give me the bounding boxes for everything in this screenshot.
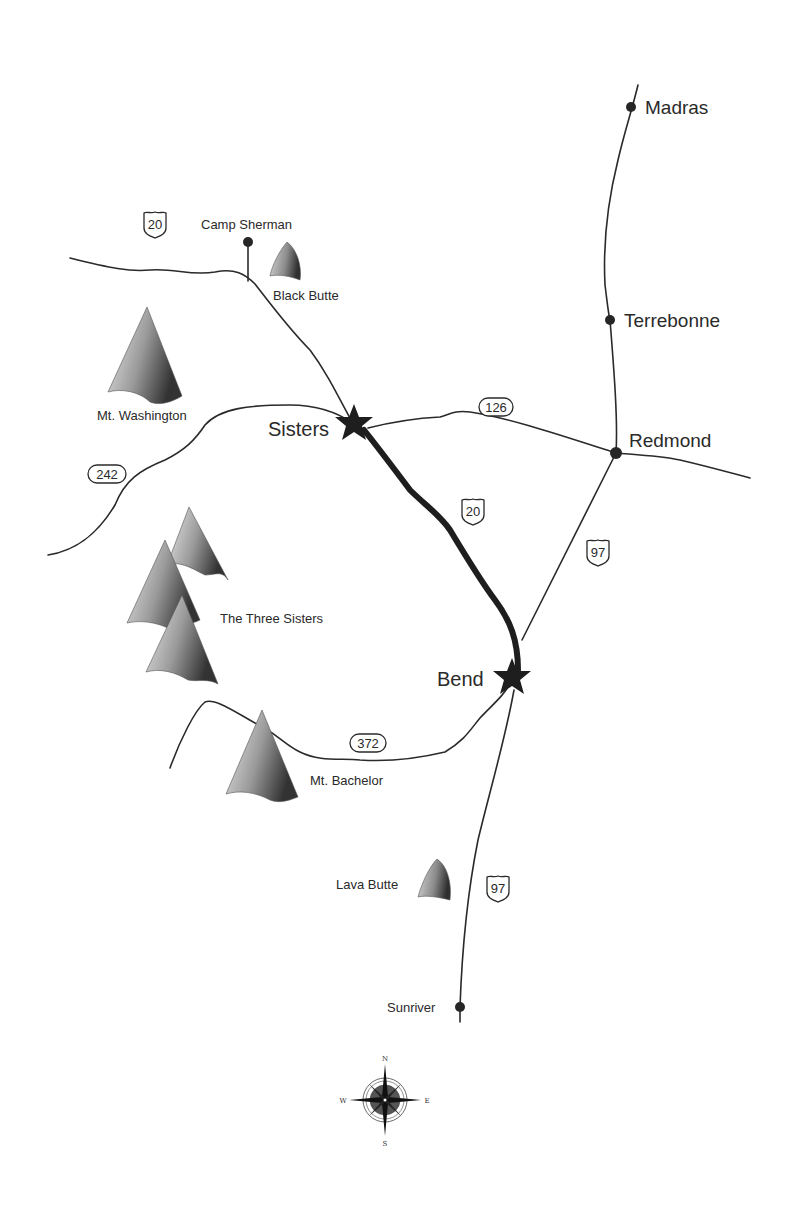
town-dot-sunriver[interactable] <box>455 1002 465 1012</box>
label-redmond: Redmond <box>629 430 711 451</box>
label-black-butte: Black Butte <box>273 288 339 303</box>
compass-rose-icon: N S W E <box>339 1055 429 1148</box>
mountain-black-butte <box>270 242 300 280</box>
shield-or372: 372 <box>350 734 386 752</box>
mountain-mt-washington <box>108 307 182 404</box>
mountain-mt-bachelor <box>226 710 298 802</box>
label-three-sisters: The Three Sisters <box>220 611 324 626</box>
route-highlight-sisters-bend <box>364 430 518 670</box>
label-mt-washington: Mt. Washington <box>97 408 187 423</box>
shield-or126: 126 <box>479 398 513 416</box>
shield-us20-central: 20 <box>462 499 484 525</box>
star-icon-bend[interactable] <box>493 658 531 694</box>
map-canvas: 20 20 126 242 97 372 97 <box>0 0 789 1226</box>
label-madras: Madras <box>645 97 708 118</box>
compass-e: E <box>424 1097 429 1105</box>
compass-w: W <box>339 1097 347 1105</box>
svg-text:97: 97 <box>591 545 605 560</box>
mountain-three-sisters <box>127 507 228 684</box>
svg-text:20: 20 <box>466 504 480 519</box>
svg-text:126: 126 <box>485 400 507 415</box>
label-camp-sherman: Camp Sherman <box>201 217 292 232</box>
compass-n: N <box>382 1055 388 1063</box>
road-us97-north <box>605 85 638 453</box>
mountain-lava-butte <box>418 859 450 900</box>
road-us20-west <box>70 258 352 422</box>
label-sunriver: Sunriver <box>387 1000 436 1015</box>
svg-text:242: 242 <box>96 467 118 482</box>
mountains-layer <box>108 242 450 900</box>
label-terrebonne: Terrebonne <box>624 310 720 331</box>
road-or372 <box>170 680 512 768</box>
shield-us20-west: 20 <box>144 212 166 238</box>
label-mt-bachelor: Mt. Bachelor <box>310 773 384 788</box>
town-dot-madras[interactable] <box>626 102 636 112</box>
shield-or242: 242 <box>88 465 126 483</box>
shield-us97-central: 97 <box>587 540 609 566</box>
label-lava-butte: Lava Butte <box>336 877 398 892</box>
svg-text:97: 97 <box>491 881 505 896</box>
svg-text:20: 20 <box>148 217 162 232</box>
svg-text:372: 372 <box>357 736 379 751</box>
label-bend: Bend <box>437 668 484 690</box>
town-dot-redmond[interactable] <box>610 447 622 459</box>
shield-us97-south: 97 <box>487 876 509 902</box>
compass-s: S <box>383 1140 388 1148</box>
town-dot-camp-sherman[interactable] <box>243 237 253 247</box>
label-sisters: Sisters <box>268 418 329 440</box>
town-dot-terrebonne[interactable] <box>605 315 615 325</box>
road-us97-south <box>460 690 514 1022</box>
